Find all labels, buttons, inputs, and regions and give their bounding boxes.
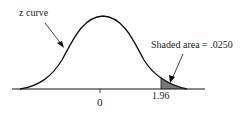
arrowhead-icon bbox=[57, 41, 64, 48]
arrowhead-icon bbox=[169, 75, 175, 83]
tick-label-critical: 1.96 bbox=[152, 91, 170, 101]
curve-label-arrow bbox=[45, 23, 62, 45]
shaded-label-arrow bbox=[172, 54, 183, 79]
shaded-area-label: Shaded area = .0250 bbox=[151, 40, 233, 50]
tick-label-zero: 0 bbox=[97, 97, 103, 108]
shaded-tail-area bbox=[161, 77, 187, 89]
z-curve bbox=[20, 16, 187, 89]
z-curve-label: z curve bbox=[19, 8, 48, 18]
